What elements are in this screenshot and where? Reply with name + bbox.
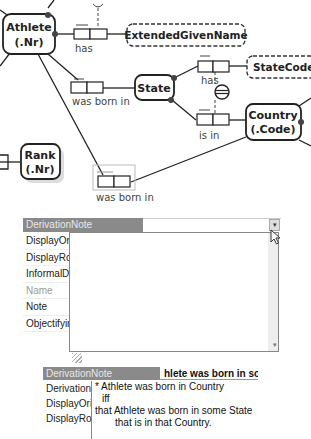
derivation-note-text[interactable]: * Athlete was born in Country iff that A… [91,381,258,439]
connector-state-has [174,66,198,78]
property-item[interactable]: DisplayRol [43,411,91,426]
entity-state[interactable]: State [135,75,177,103]
value-type-state-code[interactable]: StateCode [247,56,311,78]
fact-type-athlete-was-born-in-state[interactable]: was born in [71,79,130,107]
properties-panel-dropdown: DerivationNote ▾ DisplayOrie DisplayRol … [23,218,281,358]
note-line: iff [95,393,258,405]
properties-panel-note: DerivationNote hlete was born in sor Der… [43,367,258,439]
note-line: that Athlete was born in some State [95,405,258,417]
entity-country[interactable]: Country (.Code) [246,104,304,140]
entity-athlete-name: Athlete [6,21,52,34]
property-item[interactable]: DerivationS [43,381,91,396]
external-uniqueness-constraint[interactable] [215,85,229,99]
fact-type-state-is-in-country[interactable]: is in [197,110,229,141]
entity-athlete-refmode: (.Nr) [15,36,44,49]
entity-rank[interactable]: Rank (.Nr) [21,144,64,183]
note-editor-textarea[interactable]: ▾ [69,232,279,352]
value-type-extended-given-name[interactable]: ExtendedGivenName [124,24,247,46]
fact-type-athlete-was-born-in-country[interactable]: was born in [93,165,154,203]
property-item[interactable]: DisplayRol [23,250,71,267]
property-value-field[interactable] [143,218,281,232]
orm-diagram: Athlete (.Nr) ExtendedGivenName has was … [0,0,311,210]
entity-state-name: State [137,82,170,95]
entity-rank-refmode: (.Nr) [26,163,55,176]
property-item[interactable]: Objectifyin [23,316,71,333]
connector-athlete-wasbornin-state [48,54,78,80]
fact-reading-was-born-in-country: was born in [96,192,154,203]
value-type-state-code-label: StateCode [253,61,311,73]
selected-property-derivation-note[interactable]: DerivationNote [43,367,160,380]
entity-rank-name: Rank [24,149,56,162]
resize-grip-icon[interactable] [72,353,82,363]
fact-type-state-has-statecode[interactable]: has [198,56,229,86]
entity-country-refmode: (.Code) [250,123,295,136]
fact-reading-state-has: has [201,75,219,86]
note-line: that is in that Country. [95,417,258,429]
fact-reading-has: has [75,43,93,54]
fact-reading-is-in: is in [199,130,219,141]
property-item[interactable]: DisplayOrie [23,233,71,250]
mouse-cursor-icon [270,229,282,245]
property-list: DisplayOrie DisplayRol InformalDe Name N… [23,233,71,332]
property-list: DerivationS DisplayOrie DisplayRol [43,381,91,426]
property-item[interactable]: InformalDe [23,266,71,283]
property-item[interactable]: Note [23,299,71,316]
entity-country-name: Country [248,109,297,122]
note-line: * Athlete was born in Country [95,381,258,393]
fact-reading-was-born-in-state: was born in [72,96,130,107]
value-type-extended-given-name-label: ExtendedGivenName [124,29,247,41]
fact-type-athlete-has[interactable]: has [74,25,107,54]
property-item[interactable]: Name [23,283,71,300]
property-item[interactable]: DisplayOrie [43,396,91,411]
entity-athlete[interactable]: Athlete (.Nr) [3,12,58,54]
connector-wasbornin-country [131,137,246,182]
scrollbar[interactable]: ▾ [268,233,278,351]
connector-state-isin [172,100,196,120]
property-value-preview[interactable]: hlete was born in sor [160,367,258,380]
scroll-down-icon[interactable]: ▾ [273,341,277,349]
selected-property-derivation-note[interactable]: DerivationNote [23,218,143,232]
